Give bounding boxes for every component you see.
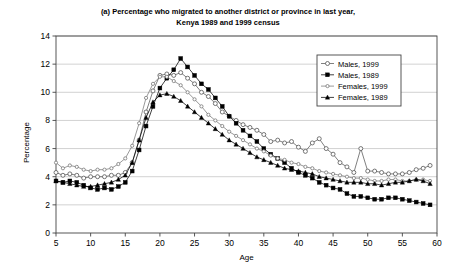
data-point bbox=[255, 147, 258, 150]
legend-label: Females, 1999 bbox=[338, 82, 388, 91]
y-tick-label: 0 bbox=[45, 228, 50, 238]
data-point bbox=[193, 82, 197, 86]
data-point bbox=[255, 140, 259, 144]
data-point bbox=[151, 89, 155, 93]
data-point bbox=[96, 187, 100, 191]
data-point bbox=[123, 180, 127, 184]
data-point bbox=[61, 167, 64, 170]
data-point bbox=[283, 158, 286, 161]
data-point bbox=[221, 124, 224, 127]
data-point bbox=[151, 82, 154, 85]
chart-figure: (a) Percentage who migrated to another d… bbox=[0, 0, 456, 277]
data-point bbox=[338, 161, 342, 165]
data-point bbox=[110, 187, 114, 191]
data-point bbox=[248, 150, 252, 154]
data-point bbox=[138, 122, 141, 125]
data-point bbox=[109, 173, 113, 177]
data-point bbox=[303, 149, 307, 153]
data-point bbox=[255, 155, 259, 159]
data-point bbox=[366, 178, 369, 181]
data-point bbox=[338, 187, 342, 191]
data-point bbox=[255, 128, 259, 132]
data-point bbox=[359, 177, 362, 180]
data-point bbox=[110, 167, 113, 170]
data-point bbox=[400, 172, 404, 176]
data-point bbox=[421, 166, 425, 170]
data-point bbox=[75, 165, 78, 168]
data-point bbox=[262, 150, 265, 153]
data-point bbox=[317, 180, 321, 184]
data-point bbox=[380, 179, 383, 182]
data-point bbox=[179, 84, 182, 87]
data-point bbox=[269, 140, 273, 144]
data-point bbox=[186, 65, 190, 69]
data-point bbox=[248, 125, 252, 129]
data-point bbox=[68, 164, 71, 167]
data-point bbox=[234, 142, 238, 146]
x-tick-label: 55 bbox=[398, 238, 408, 248]
data-point bbox=[144, 124, 148, 128]
x-tick-label: 45 bbox=[328, 238, 338, 248]
data-point bbox=[421, 202, 425, 206]
y-tick-label: 12 bbox=[41, 59, 51, 69]
data-point bbox=[235, 134, 238, 137]
legend-label: Males, 1999 bbox=[338, 60, 379, 69]
data-point bbox=[352, 177, 355, 180]
data-point bbox=[407, 199, 411, 203]
data-point bbox=[158, 86, 162, 90]
data-point bbox=[54, 170, 58, 174]
data-point bbox=[193, 98, 196, 101]
data-point bbox=[103, 168, 106, 171]
data-point bbox=[345, 165, 349, 169]
data-point bbox=[345, 175, 348, 178]
data-point bbox=[82, 168, 85, 171]
data-point bbox=[206, 95, 210, 99]
data-point bbox=[234, 121, 238, 125]
data-point bbox=[394, 196, 398, 200]
y-tick-label: 14 bbox=[41, 31, 51, 41]
x-axis: 51015202530354045505560 bbox=[54, 233, 442, 248]
data-point bbox=[366, 196, 370, 200]
data-point bbox=[116, 173, 120, 177]
data-point bbox=[290, 140, 294, 144]
y-tick-label: 4 bbox=[45, 172, 50, 182]
data-point bbox=[380, 197, 384, 201]
data-point bbox=[366, 169, 370, 173]
data-point bbox=[262, 133, 266, 137]
x-tick-label: 60 bbox=[432, 238, 442, 248]
data-point bbox=[393, 172, 397, 176]
data-point bbox=[352, 195, 356, 199]
data-point bbox=[283, 141, 287, 145]
data-point bbox=[75, 173, 79, 177]
data-point bbox=[241, 139, 244, 142]
data-point bbox=[297, 162, 300, 165]
data-point bbox=[213, 96, 217, 100]
data-point bbox=[178, 98, 182, 102]
data-point bbox=[228, 130, 231, 133]
data-point bbox=[96, 175, 100, 179]
data-point bbox=[68, 172, 72, 176]
data-point bbox=[304, 165, 307, 168]
data-point bbox=[89, 169, 92, 172]
data-point bbox=[241, 123, 245, 127]
data-point bbox=[137, 148, 141, 152]
data-point bbox=[311, 167, 314, 170]
data-point bbox=[186, 76, 190, 80]
data-point bbox=[89, 175, 93, 179]
data-point bbox=[214, 119, 217, 122]
data-point bbox=[387, 178, 390, 181]
data-point bbox=[380, 170, 384, 174]
legend: Males, 1999Males, 1989Females, 1999Femal… bbox=[317, 55, 401, 106]
data-point bbox=[352, 170, 356, 174]
data-point bbox=[428, 203, 432, 207]
data-point bbox=[200, 105, 203, 108]
data-point bbox=[269, 154, 272, 157]
data-point bbox=[186, 91, 189, 94]
data-point bbox=[331, 186, 335, 190]
data-point bbox=[338, 174, 341, 177]
data-point bbox=[165, 75, 168, 78]
data-point bbox=[414, 200, 418, 204]
data-point bbox=[207, 88, 211, 92]
y-tick-label: 6 bbox=[45, 144, 50, 154]
data-point bbox=[310, 176, 314, 180]
